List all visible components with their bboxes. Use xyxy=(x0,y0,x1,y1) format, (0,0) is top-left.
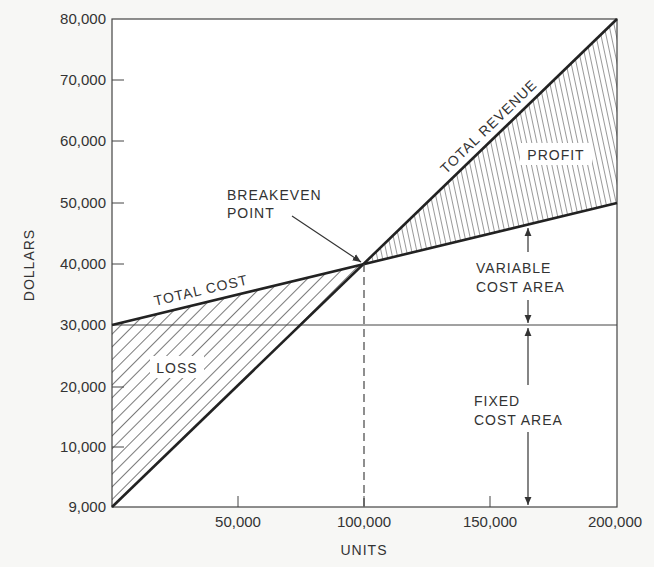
y-tick-label: 20,000 xyxy=(60,378,106,395)
y-tick-label: 60,000 xyxy=(60,132,106,149)
breakeven-label-line2: POINT xyxy=(227,205,275,221)
y-tick-label: 70,000 xyxy=(60,71,106,88)
y-tick-label: 9,000 xyxy=(68,498,106,515)
loss-label: LOSS xyxy=(156,360,197,376)
variable-cost-label-line2: COST AREA xyxy=(476,279,565,295)
y-tick-label: 30,000 xyxy=(60,316,106,333)
fixed-cost-label-line2: COST AREA xyxy=(474,412,563,428)
y-tick-label: 40,000 xyxy=(60,255,106,272)
x-axis-title: UNITS xyxy=(341,542,388,558)
x-tick-label: 200,000 xyxy=(588,513,642,530)
x-tick-label: 150,000 xyxy=(463,513,517,530)
y-tick-label: 50,000 xyxy=(60,194,106,211)
fixed-cost-label-line1: FIXED xyxy=(474,393,520,409)
x-tick-label: 50,000 xyxy=(215,513,261,530)
breakeven-label-line1: BREAKEVEN xyxy=(227,187,322,203)
y-tick-label: 80,000 xyxy=(60,10,106,27)
breakeven-chart: 80,000 70,000 60,000 50,000 40,000 30,00… xyxy=(0,0,654,567)
variable-cost-label-line1: VARIABLE xyxy=(476,260,551,276)
y-axis-title: DOLLARS xyxy=(21,229,37,301)
x-tick-label: 100,000 xyxy=(337,513,391,530)
profit-label: PROFIT xyxy=(527,147,584,163)
y-tick-label: 10,000 xyxy=(60,438,106,455)
